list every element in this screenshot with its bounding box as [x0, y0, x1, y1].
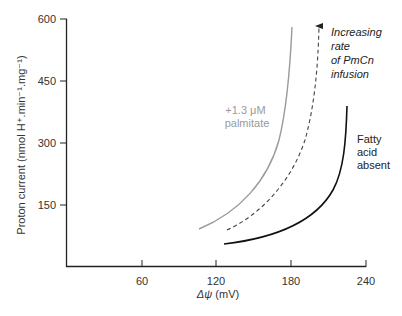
absent-label-line2: acid [357, 146, 377, 158]
infusion-label-line1: Increasing [331, 26, 383, 38]
palmitate-label-line2: palmitate [225, 117, 270, 129]
x-tick-label-120: 120 [207, 275, 225, 287]
x-axis-unit: (mV) [212, 288, 239, 300]
x-tick-label-240: 240 [357, 275, 375, 287]
y-tick-label-300: 300 [38, 137, 56, 149]
x-axis-symbol: Δψ [196, 288, 212, 300]
y-tick-label-150: 150 [38, 199, 56, 211]
infusion-label-line2: rate [331, 40, 350, 52]
fatty-acid-absent-label: Fatty acid absent [357, 133, 390, 171]
y-axis-main: Proton current [15, 162, 27, 235]
chart: 600 450 300 150 60 120 180 240 Δψ (mV) P… [0, 0, 402, 316]
y-axis-label: Proton current (nmol H⁺.min⁻¹.mg⁻¹) [15, 55, 27, 234]
absent-label-line1: Fatty [357, 133, 382, 145]
absent-label-line3: absent [357, 159, 390, 171]
x-tick-label-60: 60 [136, 275, 148, 287]
y-tick-label-450: 450 [38, 75, 56, 87]
x-axis-label: Δψ (mV) [196, 288, 239, 300]
x-tick-label-180: 180 [282, 275, 300, 287]
palmitate-label-line1: +1.3 μM [225, 104, 265, 116]
infusion-label-line4: infusion [331, 68, 369, 80]
axes [60, 19, 366, 267]
y-axis-unit: (nmol H⁺.min⁻¹.mg⁻¹) [15, 55, 27, 162]
y-tick-label-600: 600 [38, 13, 56, 25]
infusion-label: Increasing rate of PmCn infusion [331, 26, 385, 80]
palmitate-label: +1.3 μM palmitate [225, 104, 270, 129]
infusion-label-line3: of PmCn [331, 54, 374, 66]
